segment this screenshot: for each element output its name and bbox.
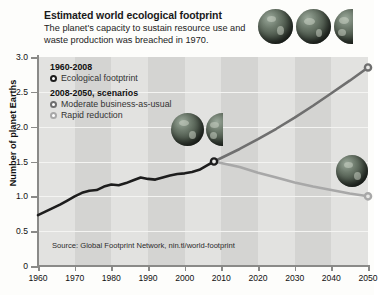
circle-marker-icon (50, 75, 57, 82)
y-tick (31, 127, 38, 129)
x-tick (258, 265, 260, 271)
x-axis (37, 265, 368, 267)
x-tick-label: 1980 (94, 273, 128, 283)
legend-item-historical[interactable]: Ecological footptrint (50, 73, 200, 83)
globe-half-icon (334, 9, 353, 44)
x-tick (368, 265, 370, 271)
y-tick (31, 196, 38, 198)
chart-legend: 1960-2008 Ecological footptrint 2008-205… (50, 62, 200, 120)
y-tick-label: 3.0 (6, 52, 28, 62)
circle-marker-icon (50, 112, 57, 119)
legend-item-label: Rapid reduction (61, 110, 123, 120)
x-tick (185, 265, 187, 271)
x-tick (75, 265, 77, 271)
x-tick-label: 2050 (351, 273, 382, 283)
y-tick-label: 0 (6, 261, 28, 271)
x-tick-label: 2010 (204, 273, 238, 283)
y-tick (31, 92, 38, 94)
x-tick (38, 265, 40, 271)
legend-item-business-as-usual[interactable]: Moderate business-as-usual (50, 99, 200, 109)
x-tick-label: 2030 (278, 273, 312, 283)
x-tick (295, 265, 297, 271)
x-tick (331, 265, 333, 271)
globe-icon (171, 113, 204, 146)
globe-icon (258, 9, 293, 44)
gridline (38, 231, 368, 232)
x-tick (221, 265, 223, 271)
x-tick-label: 2020 (241, 273, 275, 283)
x-tick-label: 2040 (314, 273, 348, 283)
y-tick-label: 0.5 (6, 226, 28, 236)
legend-group-2-title: 2008-2050, scenarios (50, 88, 200, 98)
page-subtitle: The planet's capacity to sustain resourc… (44, 23, 259, 46)
legend-item-label: Ecological footptrint (61, 73, 138, 83)
globe-half-icon (206, 113, 223, 146)
page-title: Estimated world ecological footprint (44, 9, 222, 21)
x-tick-label: 2000 (168, 273, 202, 283)
legend-item-label: Moderate business-as-usual (61, 99, 172, 109)
circle-marker-icon (50, 101, 57, 108)
gridline (38, 196, 368, 197)
y-tick (31, 266, 38, 268)
y-tick (31, 231, 38, 233)
x-tick-label: 1960 (21, 273, 55, 283)
globe-icon (336, 155, 368, 187)
x-tick-label: 1970 (58, 273, 92, 283)
x-tick-label: 1990 (131, 273, 165, 283)
globe-icon (296, 9, 331, 44)
x-tick (148, 265, 150, 271)
y-tick (31, 57, 38, 59)
x-tick (111, 265, 113, 271)
y-tick (31, 162, 38, 164)
gridline (38, 162, 368, 163)
source-credit: Source: Global Footprint Network, nin.tl… (52, 241, 235, 250)
y-axis-title: Number of planet Earths (8, 73, 18, 193)
legend-group-1-title: 1960-2008 (50, 62, 200, 72)
